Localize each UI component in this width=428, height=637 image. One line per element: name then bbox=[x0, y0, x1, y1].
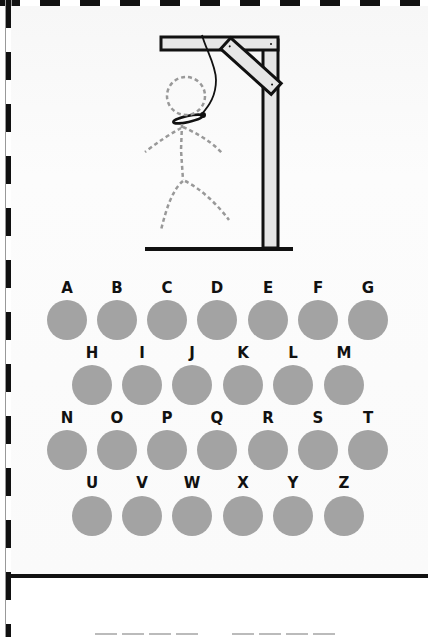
letter-blank bbox=[286, 633, 308, 635]
letter-key-o[interactable] bbox=[97, 430, 137, 470]
letter-key-q[interactable] bbox=[197, 430, 237, 470]
figure-left-arm bbox=[145, 128, 181, 152]
letter-key-f[interactable] bbox=[298, 300, 338, 340]
figure-right-leg bbox=[185, 181, 229, 220]
letter-key-m[interactable] bbox=[324, 365, 364, 405]
letter-key-j[interactable] bbox=[172, 365, 212, 405]
letter-key-g[interactable] bbox=[348, 300, 388, 340]
letter-key-y[interactable] bbox=[273, 496, 313, 536]
key-label-i: I bbox=[122, 344, 162, 362]
hangman-figure bbox=[145, 77, 229, 230]
figure-head bbox=[167, 77, 205, 115]
key-label-g: G bbox=[348, 279, 388, 297]
letter-key-e[interactable] bbox=[248, 300, 288, 340]
letter-key-c[interactable] bbox=[147, 300, 187, 340]
letter-blank bbox=[259, 633, 281, 635]
letter-key-r[interactable] bbox=[248, 430, 288, 470]
letter-key-i[interactable] bbox=[122, 365, 162, 405]
letter-blank bbox=[149, 633, 171, 635]
letter-key-p[interactable] bbox=[147, 430, 187, 470]
letter-key-k[interactable] bbox=[223, 365, 263, 405]
key-label-e: E bbox=[248, 279, 288, 297]
key-label-l: L bbox=[273, 344, 313, 362]
key-label-k: K bbox=[223, 344, 263, 362]
letter-blank bbox=[313, 633, 335, 635]
key-label-o: O bbox=[97, 409, 137, 427]
key-label-u: U bbox=[72, 474, 112, 492]
letter-blank bbox=[122, 633, 144, 635]
key-label-z: Z bbox=[324, 474, 364, 492]
letter-key-x[interactable] bbox=[223, 496, 263, 536]
letter-key-v[interactable] bbox=[122, 496, 162, 536]
figure-left-leg bbox=[161, 181, 183, 230]
letter-key-b[interactable] bbox=[97, 300, 137, 340]
figure-body bbox=[181, 124, 183, 180]
key-label-f: F bbox=[298, 279, 338, 297]
key-label-s: S bbox=[298, 409, 338, 427]
key-label-v: V bbox=[122, 474, 162, 492]
key-label-h: H bbox=[72, 344, 112, 362]
letter-key-d[interactable] bbox=[197, 300, 237, 340]
key-label-b: B bbox=[97, 279, 137, 297]
letter-key-w[interactable] bbox=[172, 496, 212, 536]
letter-blank bbox=[176, 633, 198, 635]
key-label-y: Y bbox=[273, 474, 313, 492]
key-label-t: T bbox=[348, 409, 388, 427]
letter-key-n[interactable] bbox=[47, 430, 87, 470]
letter-key-u[interactable] bbox=[72, 496, 112, 536]
letter-blank bbox=[232, 633, 254, 635]
letter-key-z[interactable] bbox=[324, 496, 364, 536]
key-label-a: A bbox=[47, 279, 87, 297]
key-label-w: W bbox=[172, 474, 212, 492]
key-label-r: R bbox=[248, 409, 288, 427]
word-display-area bbox=[11, 578, 428, 637]
letter-blank bbox=[95, 633, 117, 635]
key-label-c: C bbox=[147, 279, 187, 297]
letter-key-l[interactable] bbox=[273, 365, 313, 405]
letter-key-a[interactable] bbox=[47, 300, 87, 340]
key-label-j: J bbox=[172, 344, 212, 362]
key-label-d: D bbox=[197, 279, 237, 297]
key-label-n: N bbox=[47, 409, 87, 427]
letter-key-h[interactable] bbox=[72, 365, 112, 405]
figure-right-arm bbox=[183, 127, 222, 153]
key-label-x: X bbox=[223, 474, 263, 492]
noose-loop bbox=[173, 113, 204, 125]
key-label-q: Q bbox=[197, 409, 237, 427]
key-label-m: M bbox=[324, 344, 364, 362]
key-label-p: P bbox=[147, 409, 187, 427]
letter-key-s[interactable] bbox=[298, 430, 338, 470]
letter-key-t[interactable] bbox=[348, 430, 388, 470]
